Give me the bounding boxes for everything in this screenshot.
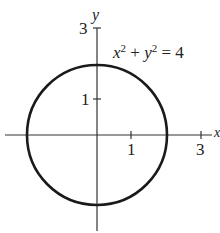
plot-canvas <box>0 0 220 233</box>
x-tick-label-3: 3 <box>196 141 205 158</box>
x-axis-label: x <box>214 126 220 140</box>
eq-plus: + <box>126 43 144 62</box>
eq-rhs: = 4 <box>157 43 184 62</box>
x-tick-label-1: 1 <box>127 141 136 158</box>
eq-x: x <box>113 43 121 62</box>
y-axis-label: y <box>92 7 99 23</box>
y-tick-label-3: 3 <box>79 20 88 37</box>
circle-graph: y 3 1 1 3 x x2 + y2 = 4 <box>0 0 220 233</box>
y-tick-label-1: 1 <box>81 91 90 108</box>
eq-y: y <box>144 43 152 62</box>
equation-label: x2 + y2 = 4 <box>113 43 184 61</box>
